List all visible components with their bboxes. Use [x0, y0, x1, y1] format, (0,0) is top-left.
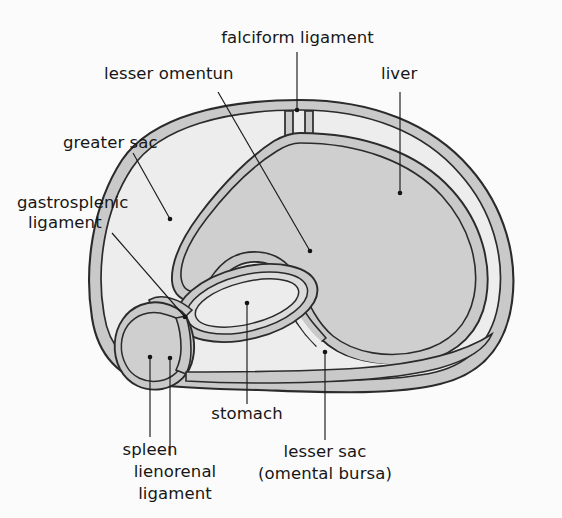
dot-greater-sac	[168, 217, 173, 222]
label-lienorenal-ligament-line1: lienorenal	[110, 462, 240, 481]
label-gastrosplenic-ligament-line1: gastrosplenic	[17, 193, 157, 212]
dot-liver	[398, 191, 403, 196]
dot-lesser-omentum	[308, 249, 313, 254]
label-spleen: spleen	[108, 440, 192, 459]
dot-lesser-sac	[323, 350, 328, 355]
label-lesser-sac-line1: lesser sac	[250, 442, 400, 461]
dot-falciform-ligament	[295, 108, 300, 113]
dot-lienorenal-ligament	[168, 356, 173, 361]
diagram-page: falciform ligament lesser omentun liver …	[0, 0, 562, 518]
dot-gastrosplenic-ligament	[183, 315, 188, 320]
label-falciform-ligament: falciform ligament	[205, 28, 390, 47]
label-stomach: stomach	[190, 404, 304, 423]
label-lienorenal-ligament-line2: ligament	[110, 484, 240, 503]
peritoneum-diagram	[0, 0, 562, 518]
label-greater-sac: greater sac	[63, 133, 193, 152]
dot-spleen	[148, 355, 153, 360]
label-gastrosplenic-ligament-line2: ligament	[28, 213, 158, 232]
label-liver: liver	[381, 64, 461, 83]
label-lesser-sac-line2: (omental bursa)	[250, 464, 400, 483]
dot-stomach	[245, 301, 250, 306]
label-lesser-omentum: lesser omentun	[104, 64, 274, 83]
